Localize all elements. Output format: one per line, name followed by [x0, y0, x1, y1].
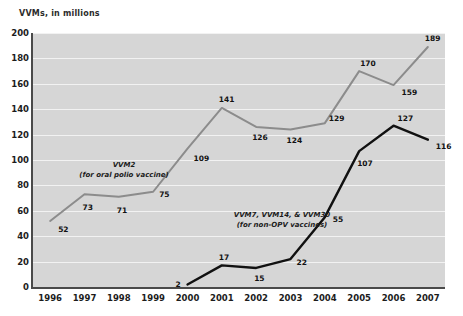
series-annotation-vvm2-line1: VVM2	[60, 160, 188, 170]
point-value-label: 15	[254, 274, 264, 283]
point-value-label: 2	[176, 280, 181, 289]
series-annotation-nonopv: VVM7, VVM14, & VVM30 (for non-OPV vaccin…	[212, 210, 352, 230]
point-value-label: 17	[219, 253, 229, 262]
point-value-label: 75	[159, 190, 169, 199]
point-value-label: 170	[360, 59, 376, 68]
point-value-label: 109	[194, 154, 210, 163]
series-annotation-nonopv-line1: VVM7, VVM14, & VVM30	[212, 210, 352, 220]
point-value-label: 22	[297, 258, 307, 267]
series-lines	[0, 0, 463, 316]
point-value-label: 52	[58, 225, 68, 234]
point-value-label: 107	[357, 159, 373, 168]
point-value-label: 71	[117, 206, 127, 215]
series-annotation-vvm2: VVM2 (for oral polio vaccine)	[60, 160, 188, 180]
point-value-label: 141	[219, 95, 235, 104]
chart-container: VVMs, in millions 2001801601401201008060…	[0, 0, 463, 316]
series-line-vvm2	[50, 47, 428, 221]
series-annotation-vvm2-line2: (for oral polio vaccine)	[60, 170, 188, 180]
point-value-label: 124	[287, 136, 303, 145]
point-value-label: 159	[402, 88, 418, 97]
point-value-label: 129	[329, 114, 345, 123]
series-annotation-nonopv-line2: (for non-OPV vaccines)	[212, 220, 352, 230]
point-value-label: 126	[252, 133, 268, 142]
point-value-label: 127	[398, 114, 414, 123]
point-value-label: 116	[436, 142, 452, 151]
point-value-label: 73	[83, 203, 93, 212]
point-value-label: 189	[425, 34, 441, 43]
